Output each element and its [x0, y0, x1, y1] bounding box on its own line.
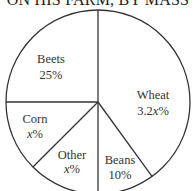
slice-label-beans: Beans — [105, 153, 136, 167]
slice-value-other: x% — [63, 162, 80, 176]
slice-label-other: Other — [58, 148, 87, 162]
slice-value-corn: x% — [26, 127, 43, 141]
slice-label-beets: Beets — [37, 52, 65, 66]
slice-value-beets: 25% — [40, 68, 63, 82]
slice-value-wheat: 3.2x% — [137, 104, 169, 118]
slice-label-wheat: Wheat — [137, 88, 170, 102]
pie-chart: Beets 25% Wheat 3.2x% Corn x% Other x% B… — [0, 0, 196, 191]
slice-value-beans: 10% — [109, 168, 132, 182]
slice-label-corn: Corn — [23, 112, 49, 126]
